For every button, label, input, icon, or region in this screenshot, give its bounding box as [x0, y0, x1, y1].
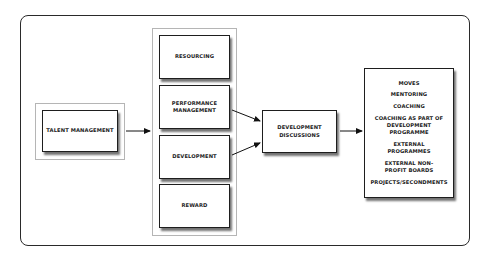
arrow-performance-to-discussions: [232, 110, 260, 121]
connector-arrows: [0, 0, 490, 260]
arrow-development-to-discussions: [232, 143, 260, 155]
